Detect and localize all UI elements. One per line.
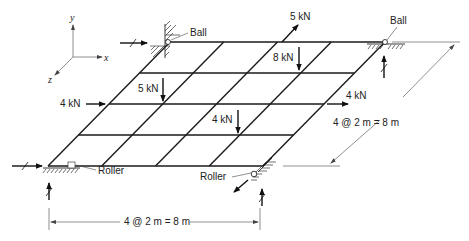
roller-support-bottom-left: Roller <box>12 162 125 200</box>
load-label-5kN-inplane: 5 kN <box>290 11 311 22</box>
y-axis-label: y <box>69 12 75 23</box>
grid-structure-diagram: y x z 5 kN 8 kN 5 kN 4 kN 4 kN <box>0 0 469 241</box>
z-axis <box>55 57 73 75</box>
ball-label-top-left: Ball <box>190 27 207 38</box>
load-arrow-5kN-inplane <box>282 25 298 42</box>
ball-support-top-left: Ball <box>120 21 207 58</box>
loads: 5 kN 8 kN 5 kN 4 kN 4 kN 4 kN <box>60 11 367 133</box>
roller-label-bottom-right: Roller <box>200 171 227 182</box>
dimension-horizontal: 4 @ 2 m = 8 m <box>49 208 260 230</box>
dimension-depth-label: 4 @ 2 m = 8 m <box>333 117 399 128</box>
roller-support-bottom-right: Roller <box>200 158 276 206</box>
load-label-4kN-down: 4 kN <box>212 114 233 125</box>
load-label-4kN-left: 4 kN <box>60 98 81 109</box>
dimension-horizontal-label: 4 @ 2 m = 8 m <box>124 216 190 227</box>
z-axis-label: z <box>47 74 52 85</box>
restraint-arrow-z-bottom-right <box>234 180 248 192</box>
coordinate-axes: y x z <box>47 12 109 85</box>
ball-label-top-right: Ball <box>390 15 407 26</box>
x-axis-label: x <box>103 52 109 63</box>
load-label-5kN-down: 5 kN <box>138 83 159 94</box>
load-label-4kN-right: 4 kN <box>346 90 367 101</box>
roller-label-bottom-left: Roller <box>98 165 125 176</box>
ball-support-top-right: Ball <box>367 15 407 78</box>
load-label-8kN: 8 kN <box>273 52 294 63</box>
